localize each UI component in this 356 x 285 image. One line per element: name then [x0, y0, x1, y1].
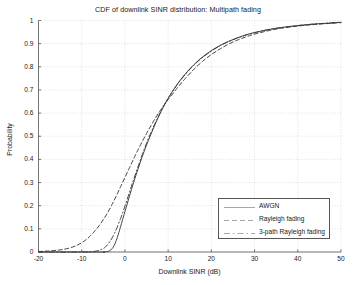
plot-area	[0, 0, 356, 285]
chart-figure: CDF of downlink SINR distribution: Multi…	[0, 0, 356, 285]
legend-label: AWGN	[259, 202, 279, 209]
legend-label: 3-path Rayleigh fading	[259, 228, 325, 235]
legend-line-rayleigh	[224, 220, 255, 221]
legend-label: Rayleigh fading	[259, 215, 304, 222]
legend-line-awgn	[224, 207, 255, 208]
legend-item: AWGN	[219, 201, 331, 214]
legend-item: Rayleigh fading	[219, 214, 331, 227]
legend-line-3path	[224, 233, 255, 234]
legend-item: 3-path Rayleigh fading	[219, 227, 331, 240]
chart-legend: AWGN Rayleigh fading 3-path Rayleigh fad…	[218, 198, 330, 239]
